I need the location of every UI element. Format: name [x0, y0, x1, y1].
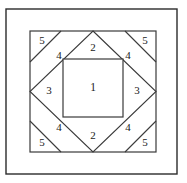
piece-3-left: 3 [46, 84, 52, 96]
piece-4-bottom-right: 4 [125, 121, 131, 133]
piece-4-bottom-left: 4 [56, 121, 62, 133]
piece-2-top: 2 [90, 41, 96, 53]
piece-5-top-right: 5 [142, 34, 148, 46]
piece-4-top-left: 4 [56, 49, 62, 61]
piece-2-bottom: 2 [90, 129, 96, 141]
piece-5-bottom-right: 5 [142, 136, 148, 148]
piece-3-right: 3 [134, 84, 140, 96]
diagram-canvas: 1223344445555 [0, 0, 187, 183]
piece-4-top-right: 4 [125, 49, 131, 61]
piece-1-center: 1 [90, 81, 96, 93]
piece-5-bottom-left: 5 [39, 136, 45, 148]
quilt-block-diagram: 1223344445555 [0, 0, 187, 183]
piece-5-top-left: 5 [39, 34, 45, 46]
